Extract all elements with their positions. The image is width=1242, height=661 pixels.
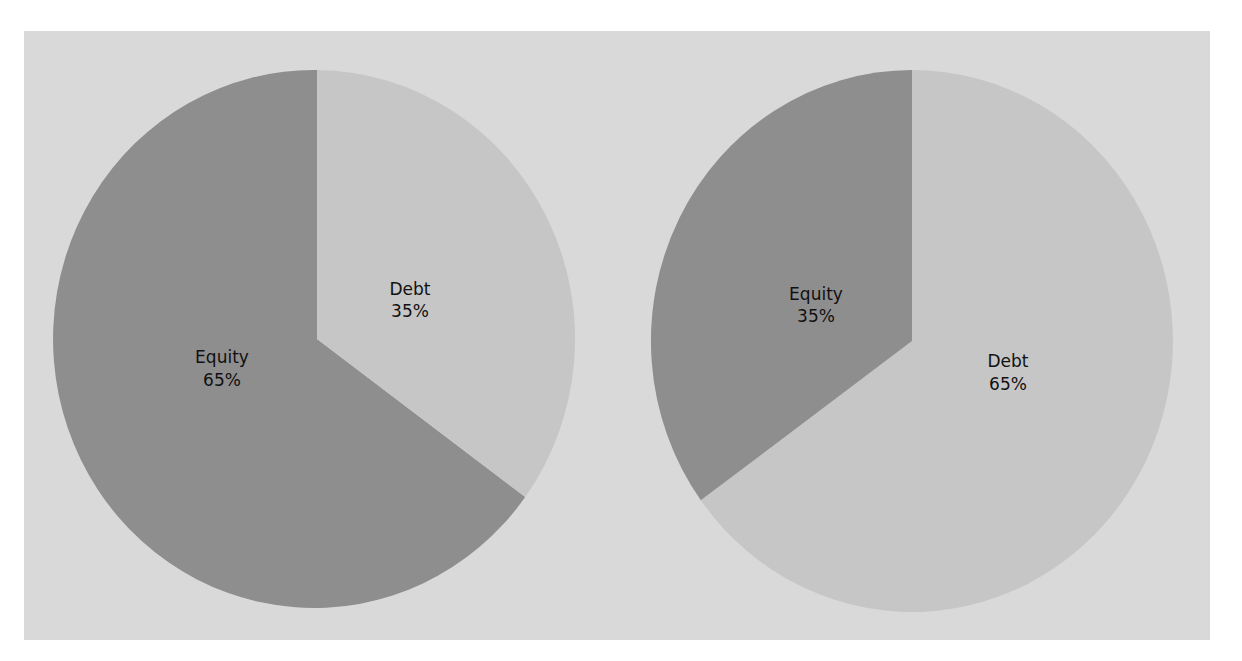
- left-debt-pct: 35%: [391, 301, 429, 321]
- left-debt-label: Debt: [389, 279, 430, 299]
- right-debt-pct: 65%: [989, 374, 1027, 394]
- right-pie-chart: Equity 35% Debt 65%: [651, 70, 1173, 612]
- right-debt-label: Debt: [987, 351, 1028, 371]
- right-equity-label: Equity: [789, 284, 843, 304]
- pie-charts: Debt 35% Equity 65% Equity 35% Debt 65%: [0, 0, 1242, 661]
- left-equity-pct: 65%: [203, 370, 241, 390]
- left-equity-label: Equity: [195, 347, 249, 367]
- right-equity-pct: 35%: [797, 306, 835, 326]
- left-pie-chart: Debt 35% Equity 65%: [53, 70, 575, 608]
